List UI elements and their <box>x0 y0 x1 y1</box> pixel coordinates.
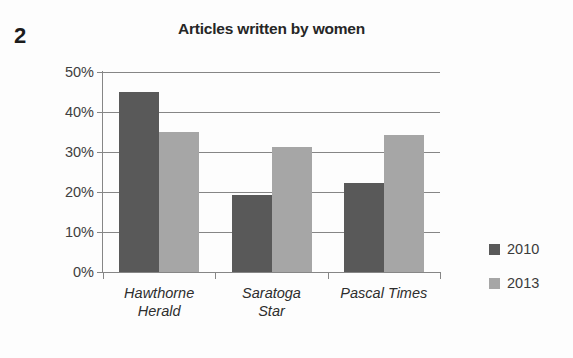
y-axis-tick-label: 40% <box>38 104 94 120</box>
legend-item-2013[interactable]: 2013 <box>489 266 569 300</box>
x-axis-label-line: Saratoga <box>215 284 327 302</box>
x-axis-label-line: Hawthorne <box>103 284 215 302</box>
bar-2013-hawthorne-herald <box>159 132 199 272</box>
plot-area <box>103 72 440 272</box>
question-number: 2 <box>14 23 26 49</box>
bar-2010-hawthorne-herald <box>119 92 159 272</box>
y-axis-tick <box>97 112 103 113</box>
y-axis-tick-label: 50% <box>38 64 94 80</box>
y-axis-tick <box>97 232 103 233</box>
x-axis-category-label: HawthorneHerald <box>103 284 215 320</box>
x-axis-category-label: Pascal Times <box>328 284 440 302</box>
chart-legend: 20102013 <box>489 232 569 300</box>
bar-2010-saratoga-star <box>232 195 272 272</box>
x-axis-separator <box>328 272 329 279</box>
legend-item-2010[interactable]: 2010 <box>489 232 569 266</box>
chart-title: Articles written by women <box>103 20 440 38</box>
bar-2010-pascal-times <box>344 183 384 272</box>
x-axis-separator <box>103 272 104 279</box>
x-axis-label-line: Pascal Times <box>328 284 440 302</box>
y-axis-tick <box>97 152 103 153</box>
gridline <box>103 72 440 73</box>
chart-figure: 2 Articles written by women 0%10%20%30%4… <box>0 0 573 358</box>
bar-2013-pascal-times <box>384 135 424 272</box>
x-axis-label-line: Herald <box>103 302 215 320</box>
y-axis-tick-label: 20% <box>38 184 94 200</box>
legend-swatch-2013 <box>489 278 500 289</box>
legend-label: 2010 <box>507 241 539 257</box>
y-axis-tick-label: 30% <box>38 144 94 160</box>
y-axis-tick-labels: 0%10%20%30%40%50% <box>34 0 94 358</box>
y-axis-tick <box>97 72 103 73</box>
gridline <box>103 272 440 273</box>
x-axis-separator <box>215 272 216 279</box>
x-axis-label-line: Star <box>215 302 327 320</box>
x-axis-category-label: SaratogaStar <box>215 284 327 320</box>
legend-swatch-2010 <box>489 244 500 255</box>
y-axis-tick-label: 0% <box>38 264 94 280</box>
y-axis-tick-label: 10% <box>38 224 94 240</box>
legend-label: 2013 <box>507 275 539 291</box>
y-axis-tick <box>97 192 103 193</box>
x-axis-separator <box>440 272 441 279</box>
bar-2013-saratoga-star <box>272 147 312 272</box>
